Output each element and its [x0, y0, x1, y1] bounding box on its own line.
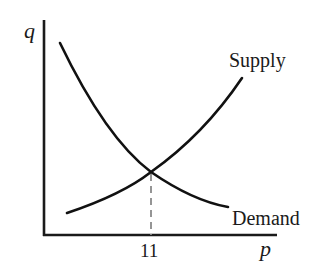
y-axis-label: q	[24, 18, 35, 43]
demand-label: Demand	[232, 207, 300, 229]
supply-curve	[67, 78, 242, 213]
equilibrium-tick-label: 11	[140, 240, 158, 261]
x-axis-label: p	[258, 236, 271, 261]
demand-curve	[60, 43, 228, 207]
supply-label: Supply	[229, 49, 286, 72]
supply-demand-chart: q p 11 Supply Demand	[0, 0, 332, 276]
